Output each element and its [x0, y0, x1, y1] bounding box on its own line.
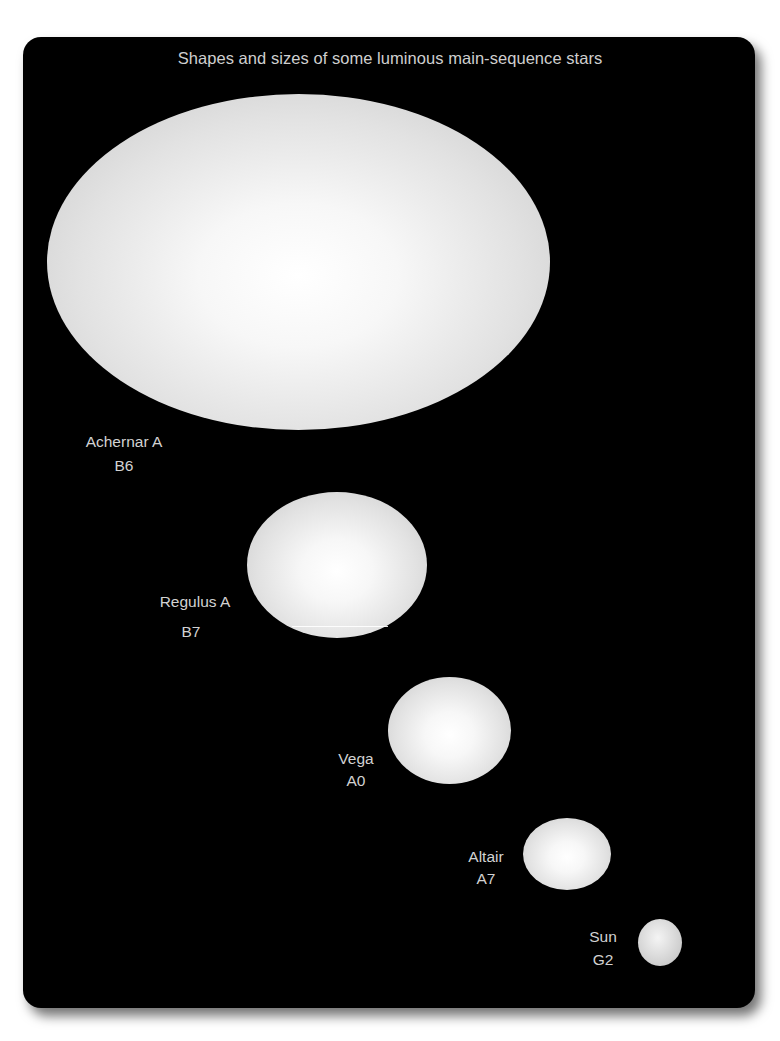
label-regulus-a-name: Regulus A — [160, 594, 231, 610]
scan-line-artifact — [292, 626, 388, 627]
star-regulus-a — [247, 492, 427, 638]
star-vega — [388, 677, 511, 784]
star-achernar-a — [47, 94, 550, 430]
star-sun — [638, 919, 682, 966]
label-sun-type: G2 — [593, 952, 614, 968]
label-vega-type: A0 — [347, 773, 366, 789]
label-achernar-a-type: B6 — [115, 458, 134, 474]
label-altair-type: A7 — [477, 871, 496, 887]
label-regulus-a-type: B7 — [182, 624, 201, 640]
label-sun-name: Sun — [589, 929, 617, 945]
figure-title: Shapes and sizes of some luminous main-s… — [0, 49, 780, 68]
label-vega-name: Vega — [338, 751, 373, 767]
label-achernar-a-name: Achernar A — [86, 434, 163, 450]
label-altair-name: Altair — [468, 849, 503, 865]
star-altair — [523, 818, 611, 890]
